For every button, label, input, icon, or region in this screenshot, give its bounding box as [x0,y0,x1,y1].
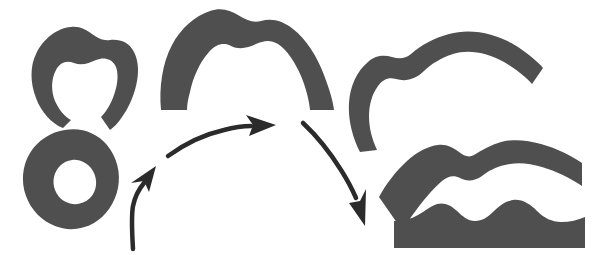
shape-diagram-svg [0,0,595,255]
figure-canvas: Shape deformation sequence diagram [0,0,595,255]
